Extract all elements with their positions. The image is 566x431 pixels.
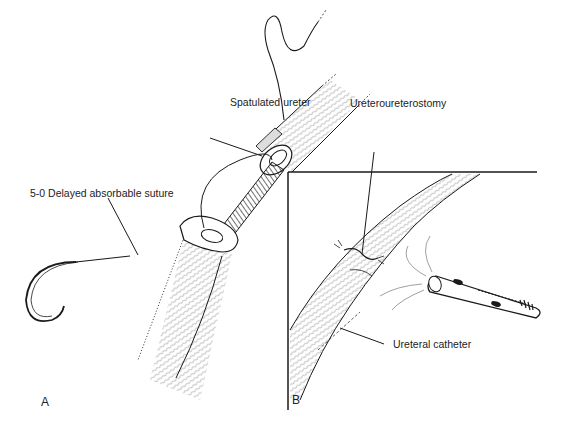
label-ureteroureterostomy: Ureteroureterostomy bbox=[350, 98, 446, 109]
label-ureteral-catheter: Ureteral catheter bbox=[393, 339, 471, 350]
ureteroureterostomy-figure bbox=[0, 0, 566, 431]
catheter-leader-line bbox=[340, 328, 384, 344]
spatulated-leader-line bbox=[210, 138, 262, 156]
suture-leader-line bbox=[108, 198, 138, 255]
panel-letter-a: A bbox=[41, 396, 49, 408]
label-delayed-absorbable-suture: 5-0 Delayed absorbable suture bbox=[30, 188, 174, 199]
panel-letter-b: B bbox=[292, 394, 300, 406]
label-spatulated-ureter: Spatulated ureter bbox=[230, 97, 311, 108]
catheter-tip-detail bbox=[380, 236, 540, 318]
panel-b-illustration bbox=[290, 152, 540, 400]
